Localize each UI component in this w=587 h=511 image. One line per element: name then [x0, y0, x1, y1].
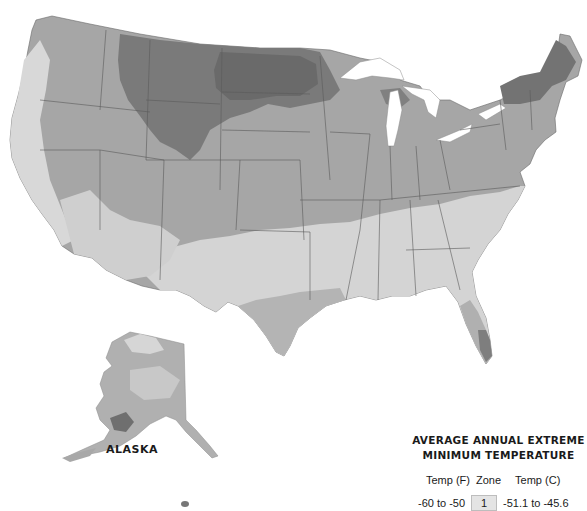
temperature-legend: AVERAGE ANNUAL EXTREME MINIMUM TEMPERATU…	[410, 433, 587, 511]
contiguous-us	[10, 16, 582, 364]
legend-row-zone-1: -60 to -50 1 -51.1 to -45.6	[410, 495, 587, 511]
legend-row-temp-f: -60 to -50	[418, 497, 465, 509]
alaska	[62, 332, 218, 507]
legend-title-line1: AVERAGE ANNUAL EXTREME	[410, 433, 587, 448]
legend-header-temp-c: Temp (C)	[515, 474, 560, 486]
legend-header-temp-f: Temp (F)	[426, 474, 470, 486]
aleutian-islands	[62, 448, 96, 462]
zone-dark-new-england	[500, 40, 576, 104]
legend-title-line2: MINIMUM TEMPERATURE	[410, 448, 587, 463]
zone-florida-tip	[478, 330, 492, 362]
hawaii-island	[181, 501, 189, 507]
alaska-label: ALASKA	[106, 443, 158, 456]
legend-row-temp-c: -51.1 to -45.6	[503, 497, 568, 509]
zone-swatch: 1	[471, 495, 497, 511]
legend-header-row: Temp (F) Zone Temp (C)	[410, 474, 587, 486]
legend-header-zone: Zone	[476, 474, 501, 486]
